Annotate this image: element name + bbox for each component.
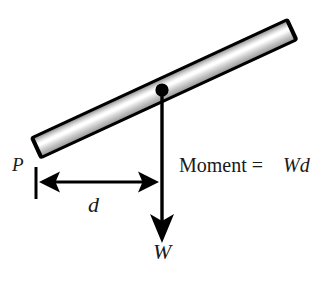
- label-d: d: [88, 192, 100, 217]
- label-moment-value: Wd: [283, 154, 311, 176]
- diagram-canvas: P d W Moment = Wd: [0, 0, 334, 285]
- label-w: W: [153, 239, 173, 264]
- label-moment-prefix: Moment =: [179, 154, 263, 176]
- physics-diagram-figure: P d W Moment = Wd: [0, 0, 334, 285]
- weight-force-arrow: [150, 90, 174, 243]
- pivot-dot-icon: [155, 83, 168, 96]
- label-p: P: [11, 154, 24, 175]
- dimension-arrow-d: [39, 172, 159, 193]
